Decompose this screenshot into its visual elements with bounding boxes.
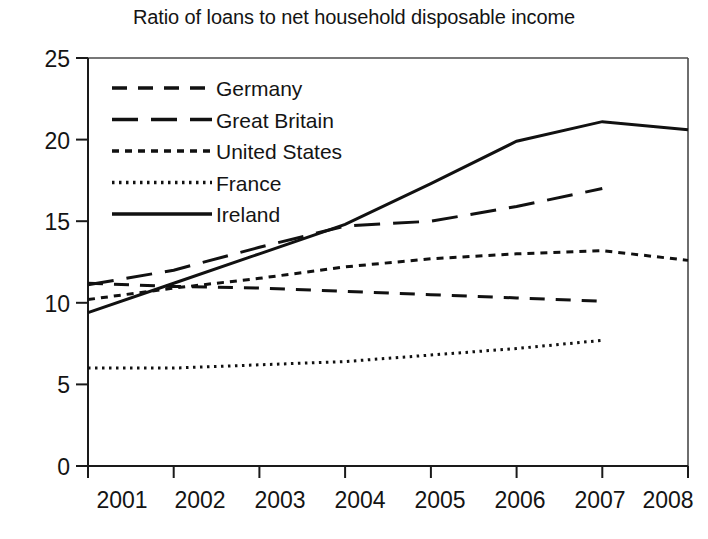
legend-label-france: France	[216, 172, 281, 195]
y-axis-ticks	[76, 58, 88, 466]
y-tick-label: 5	[57, 372, 70, 398]
legend-label-ireland: Ireland	[216, 203, 280, 226]
y-tick-label: 0	[57, 454, 70, 480]
x-tick-label: 2005	[414, 487, 465, 513]
x-tick-label: 2007	[574, 487, 625, 513]
series-line-france	[88, 340, 602, 368]
chart-container: Ratio of loans to net household disposab…	[0, 0, 708, 539]
data-series-group	[88, 122, 688, 368]
y-tick-label: 15	[44, 209, 70, 235]
legend-label-great-britain: Great Britain	[216, 109, 334, 132]
x-tick-label: 2004	[334, 487, 385, 513]
y-tick-label: 10	[44, 291, 70, 317]
x-tick-label: 2002	[174, 487, 225, 513]
x-tick-label: 2008	[642, 487, 693, 513]
legend-label-germany: Germany	[216, 77, 303, 100]
y-tick-label: 20	[44, 128, 70, 154]
chart-legend: GermanyGreat BritainUnited StatesFranceI…	[112, 77, 342, 226]
x-tick-label: 2006	[494, 487, 545, 513]
y-axis-labels: 25 20 15 10 5 0	[44, 46, 70, 480]
legend-label-united-states: United States	[216, 140, 342, 163]
plot-area: 25 20 15 10 5 0 2001 2002	[0, 0, 708, 539]
y-tick-label: 25	[44, 46, 70, 72]
series-line-great-britain	[88, 189, 602, 285]
x-axis-ticks	[88, 466, 688, 478]
x-tick-label: 2001	[96, 487, 147, 513]
x-tick-label: 2003	[254, 487, 305, 513]
x-axis-labels: 2001 2002 2003 2004 2005 2006 2007 2008	[96, 487, 693, 513]
chart-svg: 25 20 15 10 5 0 2001 2002	[0, 0, 708, 539]
